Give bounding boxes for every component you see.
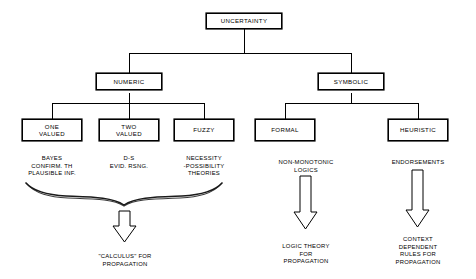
caption-formal-text: NON-MONOTONIC LOGICS	[279, 159, 334, 172]
outcome-heuristic-text: CONTEXT DEPENDENT RULES FOR PROPAGATION	[395, 236, 440, 264]
hollow-down-arrow-icon-numeric	[113, 211, 136, 242]
node-heuristic-label: HEURISTIC	[400, 126, 436, 133]
node-symbolic-label: SYMBOLIC	[334, 78, 368, 85]
caption-formal: NON-MONOTONIC LOGICS	[248, 152, 364, 174]
node-numeric[interactable]: NUMERIC	[96, 73, 162, 90]
caption-one-valued: BAYES CONFIRM. TH PLAUSIBLE INF.	[7, 148, 97, 178]
curly-brace-icon	[26, 183, 222, 206]
node-numeric-label: NUMERIC	[114, 78, 145, 85]
node-two-valued[interactable]: TWO VALUED	[99, 119, 159, 141]
hollow-down-arrow-icon-heuristic	[406, 170, 429, 227]
outcome-heuristic: CONTEXT DEPENDENT RULES FOR PROPAGATION	[371, 229, 465, 266]
node-one-valued-label: ONE VALUED	[39, 123, 65, 137]
outcome-numeric: "CALCULUS" FOR PROPAGATION	[74, 246, 176, 268]
node-symbolic[interactable]: SYMBOLIC	[318, 73, 384, 90]
caption-fuzzy-text: NECESSITY -POSSIBILITY THEORIES	[184, 155, 225, 176]
hollow-down-arrow-icon-formal	[294, 176, 317, 229]
node-heuristic[interactable]: HEURISTIC	[388, 119, 448, 141]
node-one-valued[interactable]: ONE VALUED	[22, 119, 82, 141]
caption-two-valued-text: D-S EVID. RSNG.	[110, 155, 148, 168]
outcome-formal-text: LOGIC THEORY FOR PROPAGATION	[282, 243, 329, 264]
outcome-numeric-text: "CALCULUS" FOR PROPAGATION	[98, 253, 151, 266]
caption-heuristic: ENDORSEMENTS	[368, 152, 468, 167]
node-formal-label: FORMAL	[271, 126, 299, 133]
caption-fuzzy: NECESSITY -POSSIBILITY THEORIES	[163, 148, 245, 178]
caption-heuristic-text: ENDORSEMENTS	[392, 159, 445, 165]
caption-two-valued: D-S EVID. RSNG.	[86, 148, 172, 170]
caption-one-valued-text: BAYES CONFIRM. TH PLAUSIBLE INF.	[28, 155, 76, 176]
uncertainty-taxonomy-diagram: UNCERTAINTY NUMERIC SYMBOLIC ONE VALUED …	[0, 0, 476, 279]
outcome-formal: LOGIC THEORY FOR PROPAGATION	[259, 236, 353, 266]
node-formal[interactable]: FORMAL	[255, 119, 315, 141]
node-fuzzy-label: FUZZY	[193, 126, 214, 133]
node-uncertainty[interactable]: UNCERTAINTY	[206, 13, 282, 29]
node-uncertainty-label: UNCERTAINTY	[221, 17, 268, 24]
node-two-valued-label: TWO VALUED	[116, 123, 142, 137]
node-fuzzy[interactable]: FUZZY	[174, 119, 234, 141]
